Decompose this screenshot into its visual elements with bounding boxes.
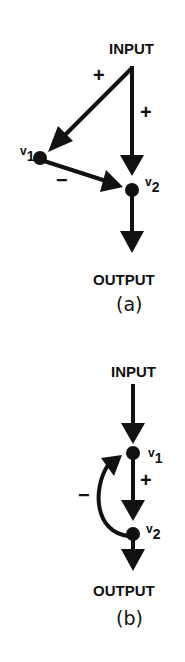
node-v1-label-a: v1 — [20, 144, 35, 164]
diagram-b: INPUT v1 + − v2 OUTPUT (b) — [78, 363, 163, 629]
sign-v1-v2-b: + — [140, 469, 152, 491]
input-label-a: INPUT — [109, 40, 154, 57]
arrowhead-icon — [100, 170, 123, 192]
arrowhead-icon — [120, 155, 144, 176]
input-label-b: INPUT — [111, 363, 156, 380]
node-v2-label-b: v2 — [146, 522, 161, 542]
diagram-canvas: INPUT + + v1 − v2 OUTPUT (a) INPUT v1 — [0, 0, 185, 662]
sign-input-v2-a: + — [140, 101, 152, 123]
node-v2-label-a: v2 — [145, 175, 160, 195]
caption-b: (b) — [116, 607, 143, 629]
diagram-a: INPUT + + v1 − v2 OUTPUT (a) — [20, 40, 160, 315]
edge-v1-v2-a — [44, 161, 106, 181]
sign-v2-v1-b: − — [78, 484, 90, 506]
arrowhead-icon — [121, 423, 145, 444]
node-v1-label-b: v1 — [148, 446, 163, 466]
output-label-a: OUTPUT — [93, 271, 155, 288]
sign-input-v1-a: + — [93, 64, 105, 86]
caption-a: (a) — [116, 293, 142, 315]
arrowhead-icon — [120, 231, 144, 253]
arrowhead-icon — [121, 500, 145, 521]
arrowhead-icon — [121, 549, 145, 571]
sign-v1-v2-a: − — [56, 169, 68, 191]
output-label-b: OUTPUT — [93, 582, 155, 599]
